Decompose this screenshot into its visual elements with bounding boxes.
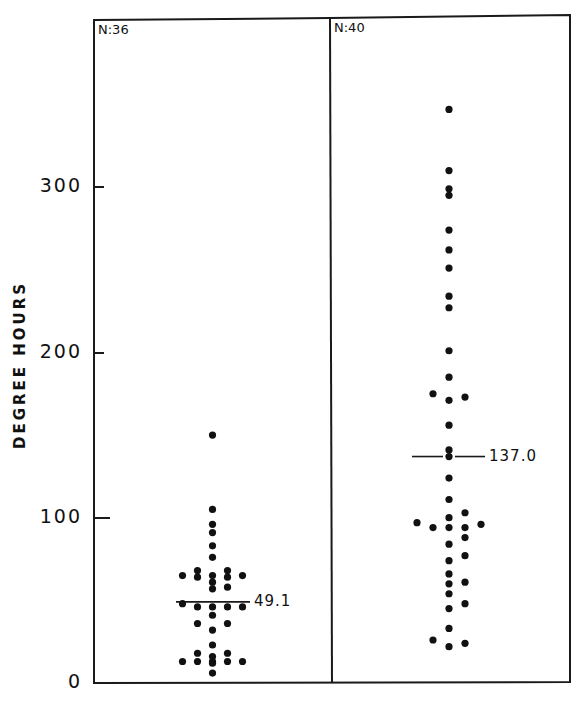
y-axis-label: DEGREE HOURS	[11, 275, 29, 455]
data-point	[209, 506, 216, 513]
data-point	[224, 574, 231, 581]
data-point	[461, 534, 468, 541]
data-point	[179, 572, 186, 579]
data-point	[445, 524, 452, 531]
data-point	[445, 474, 452, 481]
data-point	[445, 570, 452, 577]
data-point	[209, 529, 216, 536]
y-tick-300: 300	[22, 174, 82, 196]
data-point	[445, 167, 452, 174]
data-point	[429, 390, 436, 397]
data-point	[461, 552, 468, 559]
data-point	[445, 453, 452, 460]
data-point	[239, 603, 246, 610]
panel-divider	[330, 18, 332, 683]
data-point	[209, 572, 216, 579]
data-point	[429, 524, 436, 531]
plot-frame	[94, 15, 570, 683]
data-point	[224, 650, 231, 657]
data-point	[445, 246, 452, 253]
data-point	[445, 192, 452, 199]
data-point	[194, 658, 201, 665]
y-tick-100: 100	[22, 505, 82, 527]
data-point	[429, 636, 436, 643]
data-point	[209, 585, 216, 592]
data-point	[461, 579, 468, 586]
data-point	[194, 603, 201, 610]
data-point	[209, 542, 216, 549]
data-point	[445, 106, 452, 113]
data-point	[209, 521, 216, 528]
data-point	[194, 567, 201, 574]
data-point	[445, 514, 452, 521]
left-panel-dots	[179, 431, 246, 676]
data-point	[445, 347, 452, 354]
data-point	[209, 554, 216, 561]
data-point	[445, 226, 452, 233]
data-point	[194, 574, 201, 581]
right-panel-dots	[413, 106, 484, 650]
right-mean-value-label: 137.0	[489, 447, 537, 465]
left-mean-value-label: 49.1	[254, 592, 291, 610]
data-point	[461, 600, 468, 607]
right-panel-n-label: N:40	[334, 20, 365, 35]
data-point	[445, 496, 452, 503]
data-point	[209, 669, 216, 676]
y-tick-0: 0	[22, 670, 82, 692]
data-point	[445, 446, 452, 453]
data-point	[209, 603, 216, 610]
data-point	[239, 572, 246, 579]
data-point	[445, 185, 452, 192]
data-point	[209, 579, 216, 586]
data-point	[445, 293, 452, 300]
data-point	[194, 620, 201, 627]
left-panel-n-label: N:36	[98, 22, 129, 37]
data-point	[445, 643, 452, 650]
data-point	[179, 600, 186, 607]
data-point	[461, 509, 468, 516]
data-point	[224, 584, 231, 591]
data-point	[224, 567, 231, 574]
data-point	[445, 590, 452, 597]
data-point	[413, 519, 420, 526]
data-point	[445, 422, 452, 429]
data-point	[445, 304, 452, 311]
data-point	[209, 660, 216, 667]
data-point	[461, 524, 468, 531]
data-point	[179, 658, 186, 665]
data-point	[445, 264, 452, 271]
data-point	[209, 612, 216, 619]
data-point	[445, 557, 452, 564]
data-point	[445, 541, 452, 548]
data-point	[477, 521, 484, 528]
data-point	[461, 640, 468, 647]
data-point	[224, 603, 231, 610]
data-point	[209, 627, 216, 634]
data-point	[239, 658, 246, 665]
data-point	[445, 580, 452, 587]
y-axis-ticks	[94, 187, 110, 683]
data-point	[224, 658, 231, 665]
data-point	[461, 393, 468, 400]
data-point	[445, 605, 452, 612]
data-point	[209, 431, 216, 438]
data-point	[224, 620, 231, 627]
data-point	[445, 397, 452, 404]
data-point	[209, 641, 216, 648]
data-point	[445, 374, 452, 381]
data-point	[194, 650, 201, 657]
data-point	[445, 625, 452, 632]
y-tick-200: 200	[22, 340, 82, 362]
